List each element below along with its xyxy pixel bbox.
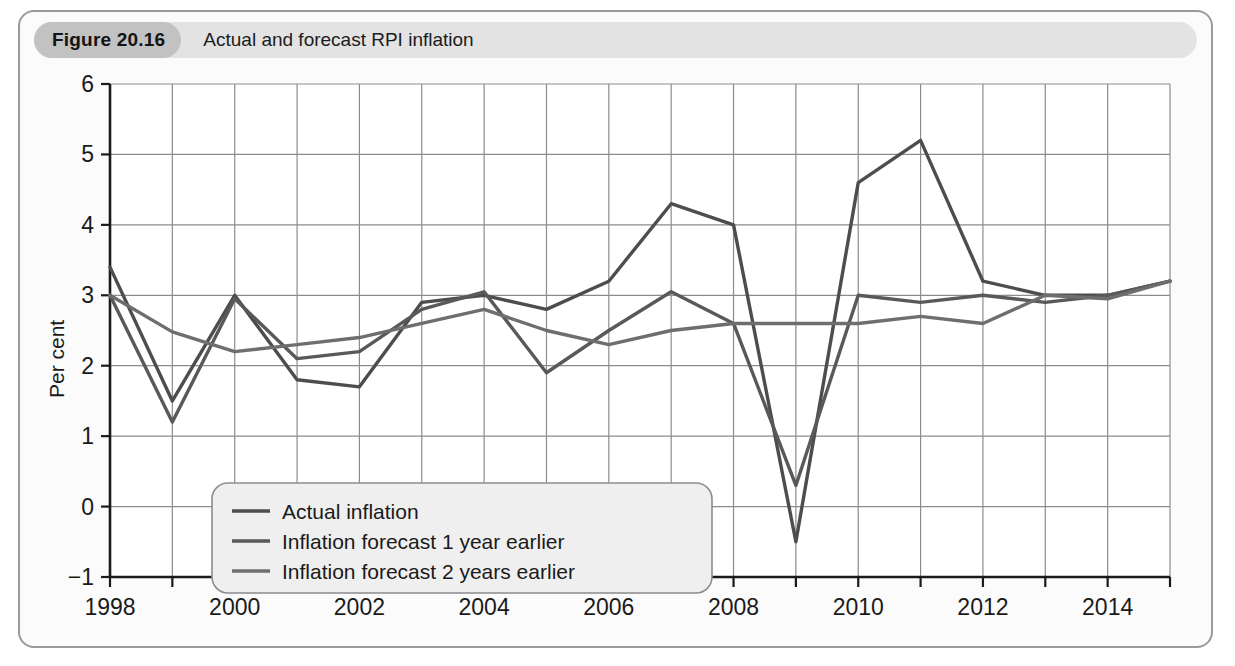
chart-legend: Actual inflationInflation forecast 1 yea…: [212, 483, 712, 593]
y-tick-label: 3: [81, 282, 94, 308]
y-tick-label: 0: [81, 494, 94, 520]
y-tick-label: 6: [81, 71, 94, 97]
x-tick-label: 2006: [583, 594, 634, 620]
y-tick-labels: −10123456: [68, 71, 94, 590]
figure-number-badge: Figure 20.16: [34, 22, 181, 58]
x-tick-label: 2002: [334, 594, 385, 620]
legend-label-3: Inflation forecast 2 years earlier: [282, 560, 575, 583]
chart-plot-region: −10123456 199820002002200420062008201020…: [36, 68, 1195, 638]
x-tick-label: 2012: [957, 594, 1008, 620]
x-tick-label: 2014: [1082, 594, 1133, 620]
x-tick-label: 2010: [833, 594, 884, 620]
x-tick-label: 2000: [209, 594, 260, 620]
figure-card: Figure 20.16 Actual and forecast RPI inf…: [18, 10, 1213, 648]
rpi-inflation-line-chart: −10123456 199820002002200420062008201020…: [36, 68, 1195, 638]
legend-label-1: Actual inflation: [282, 500, 419, 523]
y-tick-label: 4: [81, 212, 94, 238]
figure-caption: Actual and forecast RPI inflation: [181, 29, 473, 51]
x-tick-label: 2004: [459, 594, 510, 620]
figure-header: Figure 20.16 Actual and forecast RPI inf…: [34, 22, 1197, 58]
legend-label-2: Inflation forecast 1 year earlier: [282, 530, 564, 553]
y-tick-label: 5: [81, 141, 94, 167]
x-tick-labels: 199820002002200420062008201020122014: [84, 594, 1133, 620]
y-axis-title: Per cent: [45, 320, 68, 398]
x-tick-label: 1998: [84, 594, 135, 620]
y-tick-label: 1: [81, 423, 94, 449]
y-tick-label: −1: [68, 564, 94, 590]
x-tick-label: 2008: [708, 594, 759, 620]
y-tick-label: 2: [81, 353, 94, 379]
